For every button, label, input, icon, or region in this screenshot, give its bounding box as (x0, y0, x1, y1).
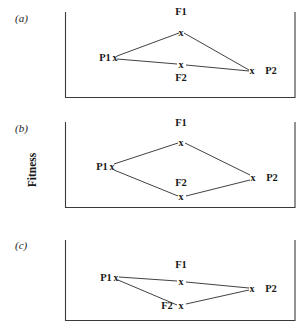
panel-b-p2-marker: x (251, 172, 256, 183)
panel-c-p2-marker: x (250, 283, 255, 294)
panel-b-p1-label: P1 (96, 161, 108, 172)
panel-a-f2-marker: x (179, 59, 184, 70)
panel-b-p1-marker: x (110, 161, 115, 172)
panel-c-edge-f2-p2 (186, 290, 249, 304)
panel-b-f2-marker: x (179, 191, 184, 202)
panel-b-p2-label: P2 (266, 172, 278, 183)
panel-a-f1-marker: x (179, 27, 184, 38)
panel-c-f2-label: F2 (161, 300, 173, 311)
panel-a-p1-marker: x (113, 52, 118, 63)
panel-b-f1-label: F1 (175, 117, 187, 128)
panel-a-edge-p1-f1 (117, 33, 179, 56)
panel-c-p1-label: P1 (100, 272, 112, 283)
panel-a: (a) F1 x P1 x x F2 x P2 (15, 6, 295, 98)
panel-b-edge-f2-p2 (186, 180, 250, 196)
panel-a-f1-label: F1 (175, 6, 187, 17)
panel-b-letter: (b) (15, 122, 28, 135)
panel-b-edge-f1-p2 (185, 143, 250, 175)
panel-b-f2-label: F2 (175, 177, 187, 188)
panel-b: (b) F1 x P1 x F2 x x P2 (15, 117, 295, 208)
panel-c-f1-label: F1 (175, 259, 187, 270)
panel-c-p1-marker: x (114, 272, 119, 283)
panel-b-edge-p1-f1 (114, 143, 178, 164)
panel-a-p2-label: P2 (265, 65, 277, 76)
y-axis-title: Fitness (26, 152, 38, 187)
figure-canvas: (a) F1 x P1 x x F2 x P2 Fitness (b) (0, 0, 306, 329)
fitness-landscape-figure: (a) F1 x P1 x x F2 x P2 Fitness (b) (0, 0, 306, 329)
panel-a-edge-f2-p2 (186, 65, 249, 71)
panel-c: (c) F1 x P1 x F2 x x P2 (15, 239, 295, 321)
panel-c-f2-marker: x (179, 300, 184, 311)
panel-a-edge-p1-f2 (117, 59, 177, 64)
panel-b-edge-p1-f2 (114, 170, 178, 196)
panel-a-letter: (a) (15, 12, 28, 25)
panel-a-f2-label: F2 (175, 72, 187, 83)
panel-a-p2-marker: x (250, 65, 255, 76)
panel-c-f1-marker: x (179, 276, 184, 287)
panel-c-edge-p1-f1 (119, 277, 177, 281)
panel-a-p1-label: P1 (99, 52, 111, 63)
panel-c-edge-f1-p2 (186, 282, 249, 288)
panel-b-f1-marker: x (179, 137, 184, 148)
panel-c-letter: (c) (15, 239, 28, 252)
panel-a-edge-f1-p2 (184, 33, 249, 70)
panel-c-p2-label: P2 (265, 283, 277, 294)
